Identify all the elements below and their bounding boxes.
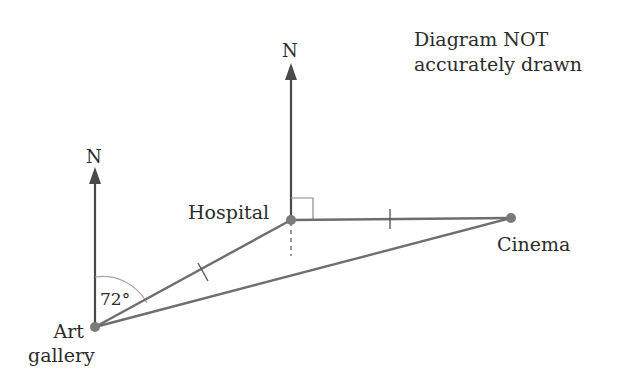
line-hospital-cinema	[291, 218, 511, 220]
label-art-gallery-line1: Art	[48, 320, 84, 342]
diagram-note: Diagram NOT accurately drawn	[414, 27, 582, 77]
label-hospital: Hospital	[188, 201, 269, 223]
north-arrow-hospital	[285, 63, 297, 220]
angle-label: 72°	[100, 288, 130, 310]
line-art-gallery-cinema	[95, 218, 511, 327]
point-cinema	[506, 213, 516, 223]
label-art-gallery-line2: gallery	[28, 344, 95, 366]
north-label-hospital: N	[282, 40, 298, 62]
point-hospital	[286, 215, 296, 225]
label-cinema: Cinema	[497, 233, 570, 255]
point-art-gallery	[90, 322, 100, 332]
line-art-gallery-hospital	[95, 220, 291, 327]
diagram-note-line1: Diagram NOT	[414, 27, 582, 52]
north-label-art-gallery: N	[86, 146, 102, 168]
bearing-diagram: N N Diagram NOT accurately drawn Hospita…	[0, 0, 622, 369]
diagram-note-line2: accurately drawn	[414, 52, 582, 77]
